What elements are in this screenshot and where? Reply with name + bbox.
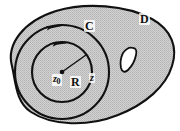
figure-container: C D z0 R z	[0, 0, 180, 131]
contour-C-label: C	[84, 20, 95, 32]
boundary-point-label: z	[89, 73, 95, 83]
center-point-label: z0	[52, 74, 62, 86]
inner-circle-direction-arrow	[56, 43, 66, 44]
domain-D-label: D	[139, 13, 150, 25]
radius-label: R	[70, 76, 81, 88]
center-point-subscript: 0	[57, 77, 61, 86]
